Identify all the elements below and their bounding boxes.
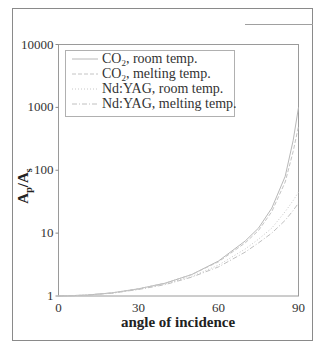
- x-tick-label: 90: [292, 300, 305, 315]
- y-tick-label: 1: [47, 288, 54, 303]
- x-axis-ticks: 0306090: [55, 300, 305, 315]
- x-tick-label: 60: [212, 300, 225, 315]
- legend-label: Nd:YAG, room temp.: [102, 81, 223, 96]
- y-tick-label: 1000: [28, 99, 54, 114]
- legend-label: Nd:YAG, melting temp.: [102, 96, 237, 111]
- x-axis-title: angle of incidence: [121, 314, 235, 330]
- x-tick-label: 30: [132, 300, 145, 315]
- y-tick-label: 10: [41, 225, 54, 240]
- y-tick-label: 100: [34, 162, 54, 177]
- x-tick-label: 0: [55, 300, 62, 315]
- y-tick-label: 10000: [21, 37, 54, 52]
- legend: CO2, room temp.CO2, melting temp.Nd:YAG,…: [66, 51, 237, 117]
- y-axis-title: Ap/As: [15, 168, 34, 203]
- chart: 110100100010000 0306090 CO2, room temp.C…: [0, 0, 321, 352]
